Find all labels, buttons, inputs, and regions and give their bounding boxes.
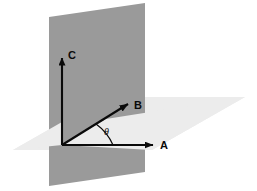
vector-label-a: A <box>160 139 168 151</box>
vector-label-c: C <box>68 49 76 61</box>
angle-label-theta: θ <box>104 126 109 137</box>
vector-diagram-figure: C B A θ <box>0 0 257 191</box>
figure-canvas: C B A θ <box>0 0 257 191</box>
vector-label-b: B <box>134 99 142 111</box>
vertical-plane <box>49 3 145 186</box>
